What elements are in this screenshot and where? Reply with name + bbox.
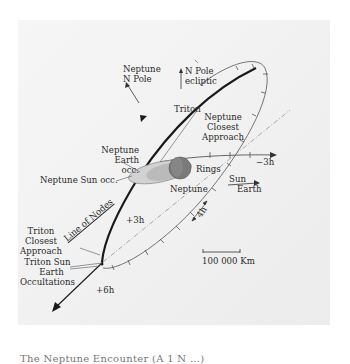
label-neptune-sun-occ: Neptune Sun occ. xyxy=(40,175,118,185)
label-plus-6h: +6h xyxy=(96,285,114,295)
label-neptune: Neptune xyxy=(170,184,208,194)
scale-bar xyxy=(203,249,240,253)
neptune-pole-arrow xyxy=(127,84,139,103)
trajectory-arrow xyxy=(140,115,147,122)
figure-caption: The Neptune Encounter (A 1 N ...) xyxy=(20,353,205,364)
label-triton-occultations: Triton SunEarthOccultations xyxy=(20,257,75,287)
label-plus-3h: +3h xyxy=(126,215,144,225)
label-sun-earth: SunEarth xyxy=(229,174,262,194)
label-triton: Triton xyxy=(174,104,201,114)
label-rings: Rings xyxy=(196,164,221,174)
label-neptune-closest-approach: NeptuneClosestApproach xyxy=(202,112,244,142)
label-minus-3h: −3h xyxy=(256,157,274,167)
label-neptune-earth-occ: NeptuneEarthocc. xyxy=(99,145,139,175)
label-triton-closest-approach: TritonClosestApproach xyxy=(20,226,62,256)
label-scale-bar: 100 000 Km xyxy=(202,256,255,266)
label-n-pole-ecliptic: N Poleecliptic xyxy=(185,66,217,86)
label-neptune-n-pole: NeptuneN Pole xyxy=(123,64,161,84)
